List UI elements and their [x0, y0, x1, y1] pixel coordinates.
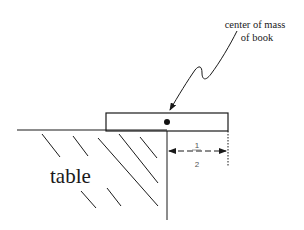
center-of-mass-label-line1: center of mass	[225, 19, 286, 30]
center-of-mass-dot	[164, 119, 170, 125]
table-label: table	[50, 164, 91, 188]
fraction-numerator: 1	[195, 141, 200, 150]
fraction-denominator: 2	[195, 160, 200, 169]
center-of-mass-pointer-arrow	[170, 31, 237, 110]
center-of-mass-label-line2: of book	[241, 32, 274, 43]
book-on-table-diagram: table center of mass of book 1 2	[0, 0, 304, 230]
